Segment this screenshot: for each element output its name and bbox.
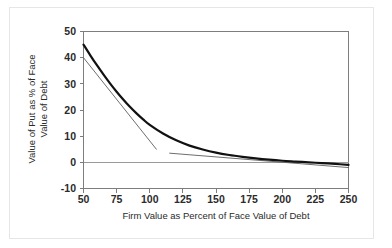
x-tick-label-200: 200	[273, 193, 291, 205]
tangent-line-low	[84, 58, 157, 150]
y-tick-label-0: 0	[70, 156, 76, 168]
y-axis-title-line1: Value of Put as % of Face	[26, 54, 37, 163]
x-tick-marks	[84, 189, 349, 193]
y-axis-title-line2: Value of Debt	[38, 80, 49, 137]
x-tick-label-150: 150	[207, 193, 225, 205]
x-tick-label-100: 100	[141, 193, 159, 205]
x-tick-label-50: 50	[78, 193, 90, 205]
y-tick-marks	[80, 32, 84, 189]
y-tick-labels: 50403020100-10	[61, 25, 76, 194]
x-tick-label-125: 125	[174, 193, 192, 205]
y-tick-label-neg10: -10	[61, 182, 76, 194]
y-axis-title: Value of Put as % of Face Value of Debt	[26, 54, 49, 163]
plot-frame	[84, 32, 349, 189]
x-tick-labels: 5075100125150175200225250	[78, 193, 358, 205]
x-tick-label-250: 250	[340, 193, 358, 205]
y-tick-label-30: 30	[64, 78, 76, 90]
x-axis-title: Firm Value as Percent of Face Value of D…	[122, 210, 309, 221]
y-tick-label-40: 40	[64, 51, 76, 63]
figure-root: 50403020100-10 5075100125150175200225250…	[0, 0, 392, 248]
tangent-line-high	[170, 153, 349, 167]
y-tick-label-50: 50	[64, 25, 76, 37]
chart-canvas: 50403020100-10 5075100125150175200225250…	[0, 0, 392, 248]
put-value-curve	[84, 45, 349, 165]
y-tick-label-10: 10	[64, 130, 76, 142]
x-tick-label-225: 225	[307, 193, 325, 205]
x-tick-label-175: 175	[240, 193, 258, 205]
y-tick-label-20: 20	[64, 104, 76, 116]
x-tick-label-75: 75	[111, 193, 123, 205]
